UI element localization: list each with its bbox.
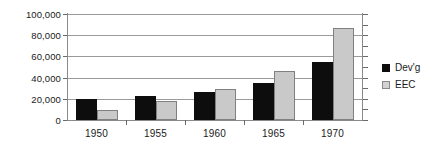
bar-devg-1970 [312, 62, 333, 120]
bar-eec-1950 [97, 110, 118, 120]
y-axis-tick-label: 0 [1, 115, 61, 126]
x-tick-mark [244, 120, 245, 125]
x-axis-tick-label-1955: 1955 [144, 128, 167, 139]
bar-devg-1955 [135, 96, 156, 120]
y-axis-tick-label: 100,000 [1, 9, 61, 20]
x-tick-mark [126, 120, 127, 125]
bar-group-1965 [244, 14, 303, 120]
legend-swatch-devg-icon [382, 64, 390, 72]
bar-group-1950 [67, 14, 126, 120]
bar-eec-1960 [215, 89, 236, 120]
right-axis-line [362, 13, 363, 121]
x-axis-line [67, 120, 363, 121]
bar-group-1970 [303, 14, 362, 120]
y-axis-tick-label: 40,000 [1, 72, 61, 83]
legend-label-devg: Dev'g [395, 62, 420, 73]
x-axis-tick-label-1965: 1965 [262, 128, 285, 139]
bar-devg-1965 [253, 83, 274, 120]
bar-devg-1950 [76, 99, 97, 120]
y-axis-tick-label: 60,000 [1, 51, 61, 62]
x-axis-tick-label-1960: 1960 [203, 128, 226, 139]
bar-devg-1960 [194, 92, 215, 120]
bar-chart: Dev'g EEC 020,00040,00060,00080,000100,0… [0, 0, 432, 149]
y-axis-tick-label: 20,000 [1, 93, 61, 104]
chart-legend: Dev'g EEC [382, 59, 420, 93]
y-axis-line [67, 13, 68, 121]
legend-swatch-eec-icon [382, 81, 390, 89]
bar-eec-1955 [156, 101, 177, 120]
legend-item-devg: Dev'g [382, 59, 420, 76]
bar-group-1960 [185, 14, 244, 120]
x-axis-tick-label-1970: 1970 [321, 128, 344, 139]
y-axis-tick-label: 80,000 [1, 30, 61, 41]
bar-eec-1965 [274, 71, 295, 120]
x-axis-tick-label-1950: 1950 [85, 128, 108, 139]
legend-label-eec: EEC [395, 79, 416, 90]
x-tick-mark [185, 120, 186, 125]
legend-item-eec: EEC [382, 76, 420, 93]
plot-area [67, 14, 362, 120]
bar-group-1955 [126, 14, 185, 120]
x-tick-mark [303, 120, 304, 125]
bar-eec-1970 [333, 28, 354, 120]
